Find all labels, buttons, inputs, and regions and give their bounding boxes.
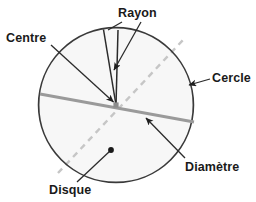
disque-point-dot: [108, 147, 114, 153]
label-diametre: Diamètre: [185, 160, 239, 174]
label-centre: Centre: [6, 31, 46, 45]
label-cercle: Cercle: [212, 71, 251, 85]
label-disque: Disque: [49, 183, 91, 197]
cercle-leader-arrow: [189, 79, 210, 85]
label-rayon: Rayon: [118, 6, 157, 20]
center-point-marker: [113, 102, 118, 107]
circle-diagram: Rayon Centre Cercle Diamètre Disque: [0, 0, 256, 202]
